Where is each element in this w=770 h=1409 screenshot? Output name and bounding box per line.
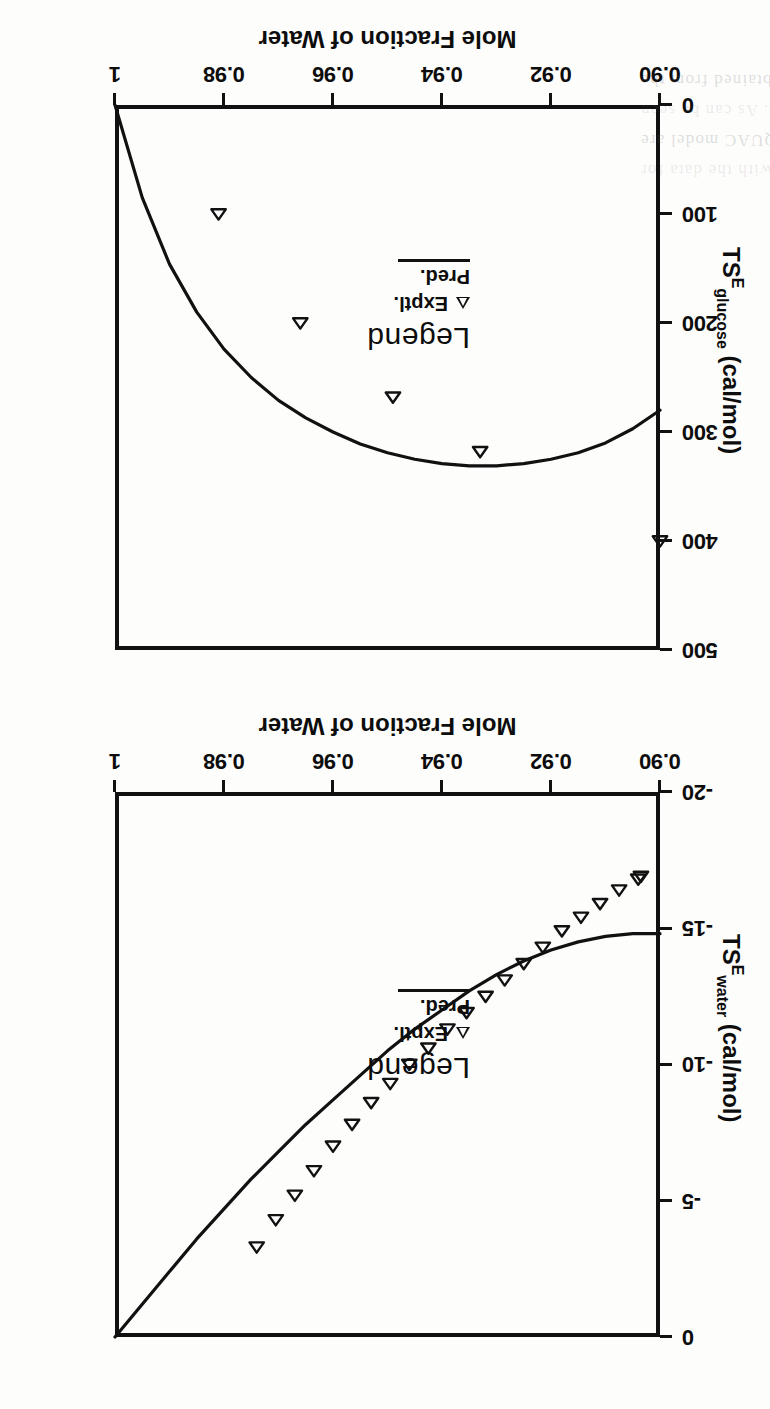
y-axis-tick xyxy=(660,1063,672,1066)
x-axis-tick xyxy=(223,93,226,105)
y-axis-tick xyxy=(660,927,672,930)
data-point-marker xyxy=(593,899,607,909)
x-axis-tick xyxy=(550,93,553,105)
x-tick-label: 0.98 xyxy=(203,748,245,774)
legend-glucose: Legend Exptl. Pred. xyxy=(367,259,470,355)
x-tick-label: 0.98 xyxy=(203,61,245,87)
x-axis-tick xyxy=(441,780,444,792)
legend-title: Legend xyxy=(367,321,470,355)
line-swatch-icon xyxy=(398,989,470,992)
y-axis-tick xyxy=(660,431,672,434)
y-axis-tick xyxy=(660,1199,672,1202)
y-tick-label: 500 xyxy=(682,637,718,663)
x-tick-label: 0.90 xyxy=(639,748,681,774)
data-point-marker xyxy=(386,392,400,402)
triangle-marker-icon xyxy=(456,1028,470,1040)
y-axis-symbol: TS xyxy=(718,935,745,966)
line-swatch-icon xyxy=(398,259,470,262)
x-tick-label: 0.90 xyxy=(639,61,681,87)
data-point-marker xyxy=(211,209,225,219)
data-point-marker xyxy=(555,926,569,936)
legend-entry-experimental: Exptl. xyxy=(367,1022,470,1045)
y-tick-label: 0 xyxy=(682,92,694,118)
x-axis-tick xyxy=(550,780,553,792)
y-tick-label: -10 xyxy=(682,1052,713,1078)
x-tick-label: 0.94 xyxy=(421,748,463,774)
y-tick-label: 400 xyxy=(682,528,718,554)
data-point-marker xyxy=(478,992,492,1002)
data-point-marker xyxy=(497,975,511,985)
x-tick-label: 0.92 xyxy=(530,748,572,774)
y-axis-tick xyxy=(660,1336,672,1339)
legend-water: Legend Exptl. Pred. xyxy=(367,989,470,1085)
triangle-marker-icon xyxy=(456,298,470,310)
legend-label-predicted: Pred. xyxy=(420,996,470,1018)
x-axis-tick xyxy=(114,780,117,792)
data-point-marker xyxy=(293,318,307,328)
data-point-marker xyxy=(250,1242,264,1252)
y-axis-tick xyxy=(660,213,672,216)
x-tick-label: 0.96 xyxy=(312,61,354,87)
legend-entry-experimental: Exptl. xyxy=(367,292,470,315)
y-tick-label: -15 xyxy=(682,915,713,941)
x-axis-tick xyxy=(114,93,117,105)
x-axis-title: Mole Fraction of Water xyxy=(259,712,517,740)
y-tick-label: -5 xyxy=(682,1188,701,1214)
y-axis-superscript: E xyxy=(729,278,746,289)
y-axis-tick xyxy=(660,104,672,107)
y-axis-unit: (cal/mol) xyxy=(718,1018,745,1123)
data-point-marker xyxy=(473,447,487,457)
y-axis-title: TSEwater (cal/mol) xyxy=(713,935,746,1124)
legend-label-experimental: Exptl. xyxy=(394,292,448,315)
y-tick-label: 0 xyxy=(682,1324,694,1350)
x-axis-tick xyxy=(441,93,444,105)
y-axis-title: TSEglucose (cal/mol) xyxy=(713,248,746,455)
legend-label-predicted: Pred. xyxy=(420,266,470,288)
x-tick-label: 0.92 xyxy=(530,61,572,87)
legend-label-experimental: Exptl. xyxy=(394,1022,448,1045)
data-point-marker xyxy=(269,1215,283,1225)
y-axis-unit: (cal/mol) xyxy=(718,349,745,454)
y-axis-tick xyxy=(660,649,672,652)
x-axis-title: Mole Fraction of Water xyxy=(259,25,517,53)
data-point-marker xyxy=(364,1098,378,1108)
y-axis-symbol: TS xyxy=(718,248,745,279)
x-tick-label: 1 xyxy=(109,748,121,774)
figure-water-excess-entropy: 0.900.920.940.960.981-20-15-10-50Mole Fr… xyxy=(0,700,770,1405)
data-point-marker xyxy=(612,885,626,895)
y-tick-label: -20 xyxy=(682,779,713,805)
y-axis-subscript: water xyxy=(714,976,731,1018)
y-axis-tick xyxy=(660,322,672,325)
figure-glucose-excess-entropy: 0.900.920.940.960.9810100200300400500Mol… xyxy=(0,0,770,705)
x-tick-label: 1 xyxy=(109,61,121,87)
y-axis-subscript: glucose xyxy=(714,289,731,349)
x-tick-label: 0.96 xyxy=(312,748,354,774)
figure-water-rotated-canvas: 0.900.920.940.960.981-20-15-10-50Mole Fr… xyxy=(0,700,770,1405)
y-tick-label: 100 xyxy=(682,201,718,227)
figure-glucose-rotated-canvas: 0.900.920.940.960.9810100200300400500Mol… xyxy=(0,0,770,705)
legend-entry-predicted: Pred. xyxy=(367,989,470,1018)
data-point-marker xyxy=(574,913,588,923)
data-point-marker xyxy=(345,1120,359,1130)
legend-entry-predicted: Pred. xyxy=(367,259,470,288)
data-point-marker xyxy=(288,1191,302,1201)
x-axis-tick xyxy=(332,780,335,792)
data-point-marker xyxy=(326,1142,340,1152)
x-tick-label: 0.94 xyxy=(421,61,463,87)
y-axis-superscript: E xyxy=(729,965,746,976)
legend-title: Legend xyxy=(367,1051,470,1085)
y-axis-tick xyxy=(660,540,672,543)
y-axis-tick xyxy=(660,791,672,794)
data-point-marker xyxy=(307,1166,321,1176)
x-axis-tick xyxy=(332,93,335,105)
x-axis-tick xyxy=(223,780,226,792)
